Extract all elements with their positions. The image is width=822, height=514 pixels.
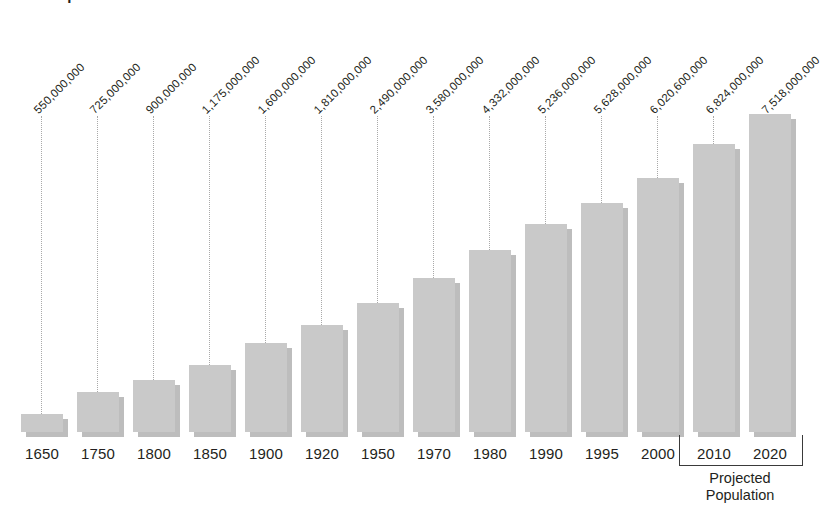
leader-line [265,116,267,343]
bar-value-label: 1,175,000,000 [200,54,262,116]
bar-value-label: 6,020,600,000 [648,54,710,116]
x-axis-tick-1920: 1920 [294,445,350,462]
leader-line [97,116,99,392]
leader-line [545,116,547,224]
bar-value-label: 6,824,000,000 [704,54,766,116]
projected-caption-line-2: Population [679,487,801,504]
bar-value-label: 550,000,000 [32,61,87,116]
bar[interactable] [693,144,735,432]
projected-population-bracket [679,435,803,466]
x-axis-tick-1800: 1800 [126,445,182,462]
bar[interactable] [749,114,791,432]
bar[interactable] [357,303,399,432]
x-axis-tick-1990: 1990 [518,445,574,462]
x-axis-tick-2000: 2000 [630,445,686,462]
bar[interactable] [133,380,175,432]
bar[interactable] [637,178,679,432]
leader-line [321,116,323,325]
bar[interactable] [581,203,623,432]
bar[interactable] [525,224,567,432]
bar[interactable] [189,365,231,432]
bar-value-label: 7,518,000,000 [760,54,822,116]
bar-value-label: 1,810,000,000 [312,54,374,116]
bar[interactable] [301,325,343,432]
x-axis-tick-1850: 1850 [182,445,238,462]
bar[interactable] [21,414,63,432]
x-axis-tick-1995: 1995 [574,445,630,462]
leader-line [377,116,379,303]
leader-line [489,116,491,250]
bar-value-label: 3,580,000,000 [424,54,486,116]
bar[interactable] [469,250,511,432]
projected-caption-line-1: Projected [679,470,801,487]
bar-value-label: 1,600,000,000 [256,54,318,116]
bar-value-label: 5,236,000,000 [536,54,598,116]
bar[interactable] [413,278,455,432]
x-axis-tick-1950: 1950 [350,445,406,462]
x-axis-tick-1980: 1980 [462,445,518,462]
bar[interactable] [245,343,287,432]
bar-value-label: 2,490,000,000 [368,54,430,116]
x-axis-tick-1900: 1900 [238,445,294,462]
leader-line [433,116,435,278]
x-axis-tick-1970: 1970 [406,445,462,462]
bar-value-label: 725,000,000 [88,61,143,116]
leader-line [713,116,715,144]
bar-value-label: 4,332,000,000 [480,54,542,116]
x-axis-tick-1750: 1750 [70,445,126,462]
projected-population-caption: ProjectedPopulation [679,470,801,504]
x-axis-tick-1650: 1650 [14,445,70,462]
leader-line [601,116,603,203]
bar-value-label: 900,000,000 [144,61,199,116]
leader-line [153,116,155,380]
bar[interactable] [77,392,119,432]
leader-line [209,116,211,365]
leader-line [41,116,43,414]
leader-line [657,116,659,178]
bar-value-label: 5,628,000,000 [592,54,654,116]
